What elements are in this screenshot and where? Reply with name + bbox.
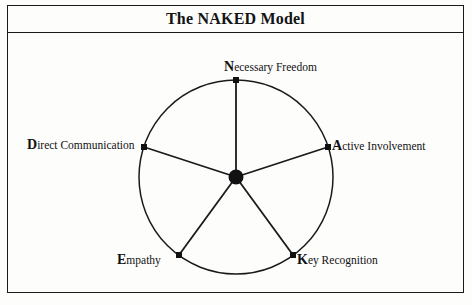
node-marker-key-recognition	[290, 252, 296, 258]
node-marker-empathy	[176, 252, 182, 258]
label-key-recognition-rest: ey Recognition	[308, 254, 378, 266]
node-marker-active-involvement	[325, 144, 331, 150]
figure-canvas: The NAKED Model Necessary Freedom Active…	[0, 0, 472, 305]
spoke-key-recognition	[236, 177, 293, 255]
label-empathy-rest: mpathy	[126, 254, 161, 266]
spoke-direct-communication	[144, 147, 236, 177]
figure-title-bar: The NAKED Model	[7, 5, 464, 33]
label-active-involvement: Active Involvement	[332, 139, 425, 154]
center-hub	[229, 170, 244, 185]
label-key-recognition: Key Recognition	[297, 253, 378, 268]
label-direct-communication-initial: D	[27, 137, 37, 152]
spoke-empathy	[179, 177, 236, 255]
label-active-involvement-initial: A	[332, 138, 342, 153]
spoke-active-involvement	[236, 147, 328, 177]
page-title: The NAKED Model	[166, 10, 305, 28]
label-direct-communication-rest: irect Communication	[37, 139, 134, 151]
label-key-recognition-initial: K	[297, 252, 308, 267]
label-empathy-initial: E	[117, 252, 126, 267]
node-marker-direct-communication	[141, 144, 147, 150]
label-necessary-freedom-initial: N	[224, 59, 234, 74]
label-direct-communication: Direct Communication	[27, 138, 135, 153]
label-necessary-freedom: Necessary Freedom	[224, 60, 317, 75]
label-empathy: Empathy	[117, 253, 161, 268]
label-active-involvement-rest: ctive Involvement	[342, 140, 425, 152]
node-marker-necessary-freedom	[233, 77, 239, 83]
label-necessary-freedom-rest: ecessary Freedom	[234, 61, 317, 73]
